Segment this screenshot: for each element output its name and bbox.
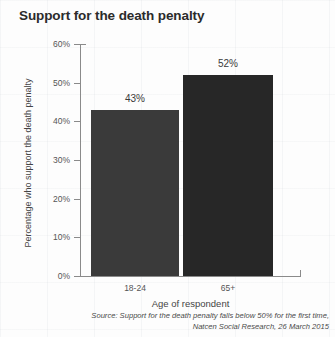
- chart-title: Support for the death penalty: [19, 8, 204, 23]
- source-note: Source: Support for the death penalty fa…: [10, 311, 329, 333]
- plot-area: [80, 44, 300, 276]
- source-line-1: Source: Support for the death penalty fa…: [10, 311, 329, 322]
- x-axis-title: Age of respondent: [80, 298, 301, 309]
- source-line-2: Natcen Social Research, 26 March 2015: [10, 322, 329, 333]
- bar-65+[interactable]: [183, 75, 273, 276]
- bar-18-24[interactable]: [91, 110, 179, 276]
- y-axis-title: Percentage who support the death penalty: [23, 68, 33, 258]
- x-category-label-65+: 65+: [183, 283, 273, 293]
- bar-value-label-18-24: 43%: [91, 93, 179, 104]
- y-tick-label: 60%: [26, 39, 70, 49]
- x-axis-end-tick: [300, 270, 301, 277]
- y-tick-0pct: [74, 276, 80, 277]
- x-axis-line: [80, 276, 301, 277]
- x-category-label-18-24: 18-24: [91, 283, 179, 293]
- bar-value-label-65+: 52%: [183, 58, 273, 69]
- y-tick-label: 0%: [26, 271, 70, 281]
